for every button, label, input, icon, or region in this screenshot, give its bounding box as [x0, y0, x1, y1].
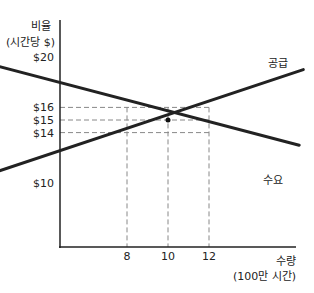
supply-label: 공급	[268, 57, 288, 70]
y-tick-label: $15	[33, 114, 54, 127]
y-tick-label: $10	[33, 177, 54, 190]
equilibrium-point	[166, 118, 171, 123]
x-axis-label: 수량	[276, 255, 296, 268]
demand-label: 수요	[263, 174, 283, 187]
x-axis-label-unit: (100만 시간)	[233, 270, 296, 283]
y-tick-label: $20	[33, 51, 54, 64]
y-tick-label: $14	[33, 127, 54, 140]
supply-demand-chart: 비율(시간당 $)수량(100만 시간)$20$16$15$14$1081012…	[0, 0, 314, 293]
y-tick-label: $16	[33, 101, 54, 114]
x-tick-label: 8	[124, 250, 131, 263]
y-axis-label: 비율	[31, 20, 51, 33]
x-tick-label: 10	[161, 250, 175, 263]
x-tick-label: 12	[202, 250, 216, 263]
y-axis-label-unit: (시간당 $)	[6, 36, 55, 49]
